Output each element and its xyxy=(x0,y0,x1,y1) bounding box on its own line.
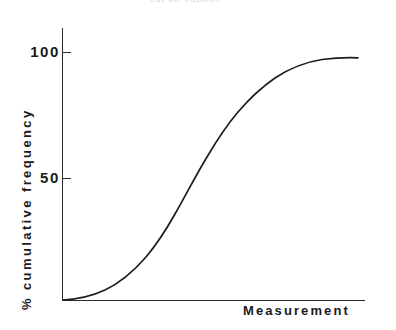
cumulative-frequency-curve xyxy=(63,58,358,300)
y-axis-tick-label-50: 50 xyxy=(40,170,60,185)
x-axis-title: Measurement xyxy=(243,304,350,317)
figure-cumulative-frequency-ogive: cut off caption 100 50 % cumulative freq… xyxy=(0,0,396,330)
y-axis-title: % cumulative frequency xyxy=(14,10,40,310)
